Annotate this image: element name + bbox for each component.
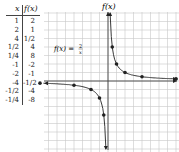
data-point <box>115 62 119 66</box>
y-axis-label: f(x) <box>101 2 116 11</box>
table-cell-fx: 2 <box>23 18 35 25</box>
table-header-x: x <box>15 4 20 13</box>
data-point <box>123 71 127 75</box>
table-cell-x: 1 <box>4 18 19 25</box>
data-point <box>98 96 102 100</box>
table-cell-x: -2 <box>4 71 19 78</box>
table-cell-fx: -4 <box>23 88 35 95</box>
data-point <box>89 88 93 92</box>
data-point <box>72 83 76 87</box>
data-point <box>110 45 114 49</box>
table-cell-x: 1/4 <box>4 53 19 60</box>
data-point <box>174 77 178 81</box>
table-cell-x: 1/2 <box>4 44 19 51</box>
table-cell-fx: -1/2 <box>23 80 35 87</box>
data-point <box>140 75 144 79</box>
table-cell-fx: -8 <box>23 97 35 104</box>
data-point <box>38 81 42 85</box>
formula-label: f(x) = 2 x <box>53 43 83 55</box>
table-cell-x: -4 <box>4 80 19 87</box>
table-cell-x: 2 <box>4 27 19 34</box>
table-cell-x: -1 <box>4 62 19 69</box>
table-cell-x: -1/2 <box>4 88 19 95</box>
svg-text:f(x) =: f(x) = <box>53 45 74 53</box>
table-cell-x: -1/4 <box>4 97 19 104</box>
table-cell-fx: 4 <box>23 44 35 51</box>
table-cell-fx: -1 <box>23 71 35 78</box>
table-cell-x: 4 <box>4 36 19 43</box>
data-point <box>102 113 106 117</box>
table-cell-fx: -2 <box>23 62 35 69</box>
table-cell-fx: 1 <box>23 27 35 34</box>
table-cell-fx: 1/2 <box>23 36 35 43</box>
table-cell-fx: 8 <box>23 53 35 60</box>
svg-text:x: x <box>79 49 82 55</box>
table-header-fx: f(x) <box>24 4 38 13</box>
